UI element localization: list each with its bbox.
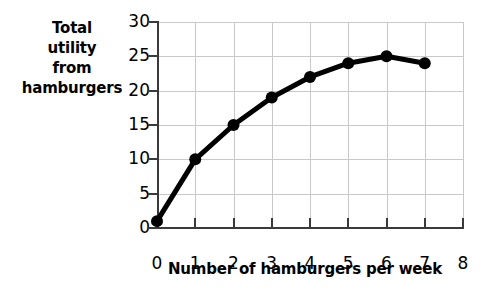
total-utility-curve — [157, 22, 463, 228]
y-tick-label-15: 15 — [120, 116, 150, 133]
data-point-x0-y1 — [151, 215, 163, 227]
data-point-x7-y24 — [419, 57, 431, 69]
series-markers — [151, 50, 431, 227]
data-point-x5-y24 — [342, 57, 354, 69]
gridline-x-8 — [463, 22, 464, 228]
y-tick-label-5: 5 — [120, 185, 150, 202]
x-axis-title: Number of hamburgers per week — [130, 260, 480, 278]
data-point-x4-y22 — [304, 71, 316, 83]
series-line — [157, 56, 425, 221]
y-tick-label-30: 30 — [120, 13, 150, 30]
data-point-x1-y10 — [189, 153, 201, 165]
plot-area: 012345678 — [157, 22, 463, 228]
data-point-x6-y25 — [381, 50, 393, 62]
y-tick-label-10: 10 — [120, 150, 150, 167]
y-axis-tick-labels: 051015202530 — [108, 0, 150, 250]
y-tick-label-25: 25 — [120, 47, 150, 64]
data-point-x3-y19 — [266, 92, 278, 104]
utility-chart-figure: Total utility from hamburgers 0510152025… — [0, 0, 498, 298]
y-tick-label-20: 20 — [120, 82, 150, 99]
data-point-x2-y15 — [228, 119, 240, 131]
y-tick-label-0: 0 — [120, 219, 150, 236]
